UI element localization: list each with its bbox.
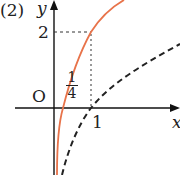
x-tick-label: 1 [92,114,103,131]
y-axis-arrow-icon [50,0,58,10]
graph-figure: (2) y x O 2 1 1 4 [0,0,180,175]
origin-label: O [32,88,46,105]
fraction-numerator: 1 [66,70,78,85]
dashed-curve [62,44,180,175]
fraction-denominator: 4 [66,86,78,101]
x-axis-arrow-icon [170,104,180,112]
graph-canvas [0,0,180,175]
x-axis-label: x [172,114,180,131]
y-axis-label: y [37,0,47,17]
y-tick-label: 2 [38,24,49,41]
fraction-annotation: 1 4 [66,70,78,101]
part-label: (2) [0,2,24,19]
